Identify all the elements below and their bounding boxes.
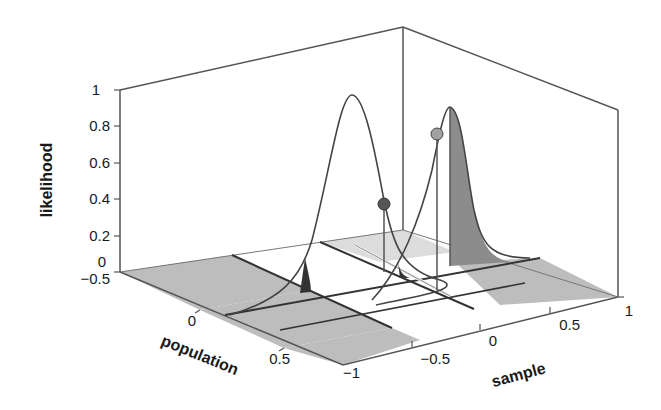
z-tick-0.8: 0.8 bbox=[89, 117, 110, 134]
x-tick-neg0.5: −0.5 bbox=[80, 270, 110, 287]
sample-marker bbox=[431, 128, 443, 140]
population-marker bbox=[378, 198, 390, 210]
z-tick-1: 1 bbox=[92, 81, 100, 98]
likelihood-3d-plot: 1 0.8 0.6 0.4 0.2 0 −0.5 0 0.5 −1 −0.5 0… bbox=[0, 0, 661, 410]
z-tick-0.4: 0.4 bbox=[89, 190, 110, 207]
x-tick-0: 0 bbox=[188, 312, 196, 329]
x-axis-label: population bbox=[159, 332, 241, 378]
y-tick-0: 0 bbox=[489, 332, 497, 349]
sample-curve-shaded bbox=[450, 107, 510, 266]
z-axis-label: likelihood bbox=[38, 143, 55, 218]
z-tick-0.2: 0.2 bbox=[89, 227, 110, 244]
y-tick-1: 1 bbox=[625, 302, 633, 319]
y-axis-label: sample bbox=[490, 359, 548, 390]
z-tick-0: 0 bbox=[98, 253, 106, 270]
x-tick-0.5: 0.5 bbox=[269, 350, 290, 367]
y-tick-0.5: 0.5 bbox=[559, 316, 580, 333]
z-tick-0.6: 0.6 bbox=[89, 154, 110, 171]
z-ticks bbox=[114, 90, 120, 272]
y-tick-neg1: −1 bbox=[343, 364, 360, 381]
y-tick-neg0.5: −0.5 bbox=[420, 350, 450, 367]
